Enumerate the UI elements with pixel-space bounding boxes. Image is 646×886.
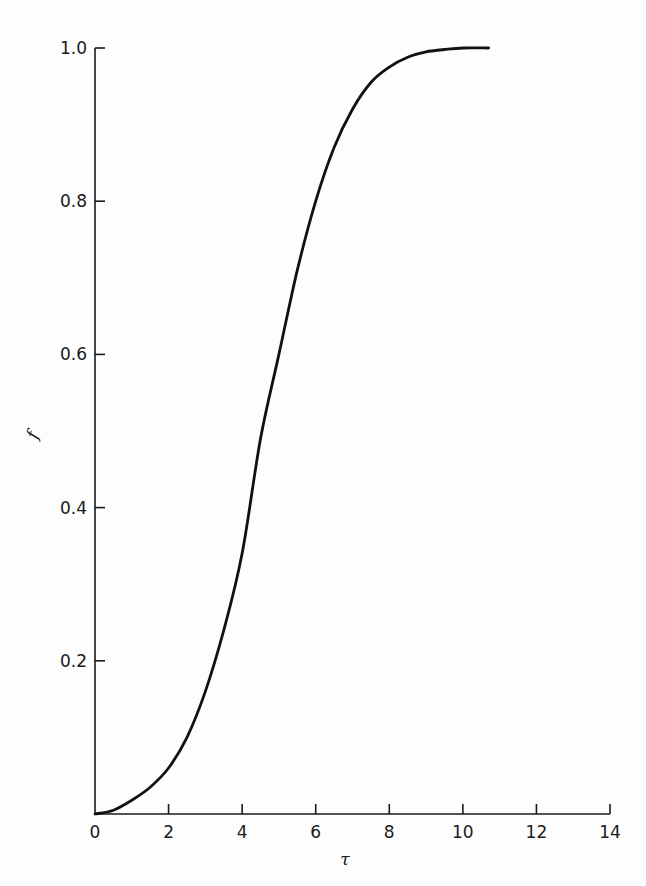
x-tick-label: 14 bbox=[599, 822, 621, 842]
axes bbox=[95, 48, 610, 814]
y-axis-label: f bbox=[21, 426, 44, 443]
y-tick-label: 0.6 bbox=[60, 344, 87, 364]
x-tick-label: 4 bbox=[237, 822, 248, 842]
x-tick-label: 12 bbox=[526, 822, 548, 842]
y-tick-label: 1.0 bbox=[60, 38, 87, 58]
x-tick-label: 6 bbox=[310, 822, 321, 842]
chart: 02468101214 0.20.40.60.81.0 τ f bbox=[0, 0, 646, 886]
data-curve bbox=[95, 48, 489, 814]
x-axis-label: τ bbox=[340, 849, 350, 869]
x-ticks: 02468101214 bbox=[90, 804, 621, 842]
y-tick-label: 0.4 bbox=[60, 498, 87, 518]
x-tick-label: 10 bbox=[452, 822, 474, 842]
x-tick-label: 0 bbox=[90, 822, 101, 842]
x-tick-label: 8 bbox=[384, 822, 395, 842]
y-ticks: 0.20.40.60.81.0 bbox=[60, 38, 105, 671]
y-tick-label: 0.2 bbox=[60, 651, 87, 671]
y-tick-label: 0.8 bbox=[60, 191, 87, 211]
x-tick-label: 2 bbox=[163, 822, 174, 842]
